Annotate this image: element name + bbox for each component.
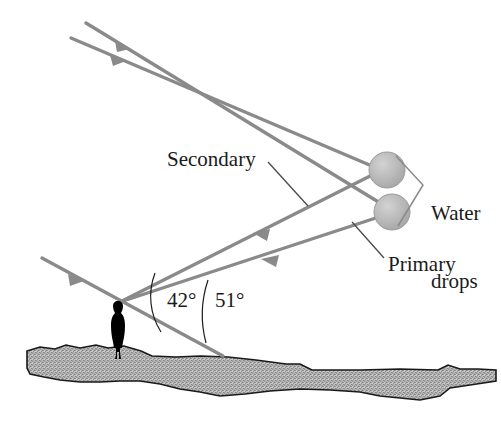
label-water-drops-line2: drops [431,270,481,293]
leader-secondary [268,162,308,206]
water-drop-lower [374,194,410,230]
rainbow-diagram: Secondary Primary Water drops 42° 51° [0,0,501,427]
label-angle-primary: 42° [167,289,196,312]
arrowhead-primary-return [261,255,279,267]
water-drops [369,152,423,230]
water-drop-upper [369,152,405,188]
label-water-drops: Water drops [431,157,481,338]
ground-band [27,345,496,400]
ground [27,345,496,400]
primary-return-ray [120,212,394,302]
leader-primary [352,222,384,258]
secondary-return-ray [120,170,382,302]
angle-arc-51 [202,280,208,343]
label-water-drops-line1: Water [431,202,481,225]
label-secondary: Secondary [167,148,256,171]
diagram-canvas [0,0,501,427]
label-angle-secondary: 51° [215,289,244,312]
